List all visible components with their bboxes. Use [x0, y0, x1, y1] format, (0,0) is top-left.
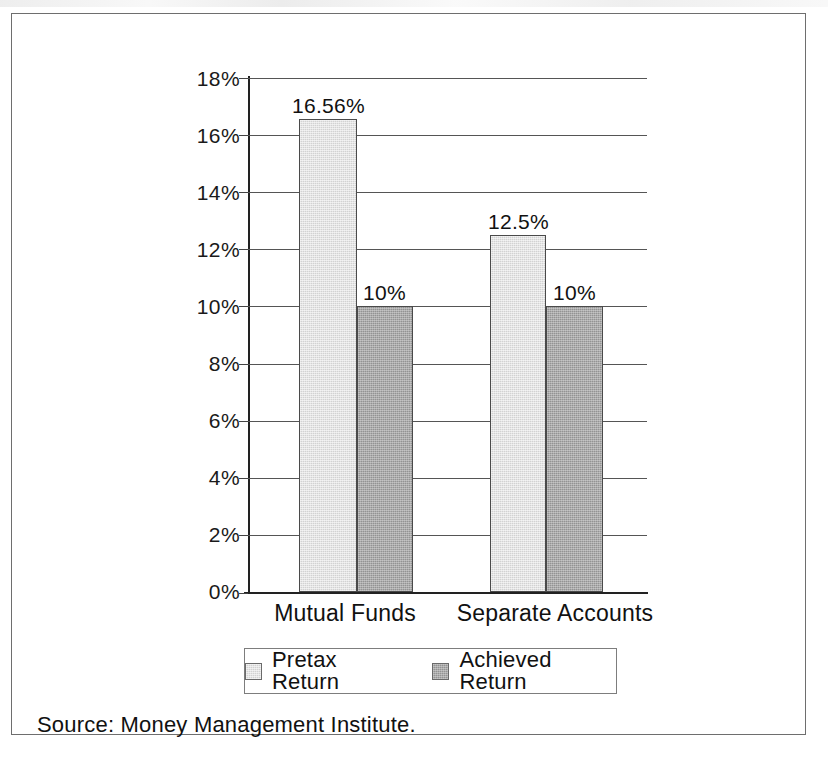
bar-value-mutual-funds-pretax: 16.56%: [292, 95, 365, 116]
legend-item-achieved-return[interactable]: Achieved Return: [432, 649, 616, 693]
legend-swatch-icon: [432, 663, 449, 680]
x-axis-baseline: [244, 592, 648, 594]
bar-separate-accounts-achieved[interactable]: [546, 306, 603, 592]
y-tick-label: 16%: [166, 125, 240, 146]
plot-area: 16.56% 10% 12.5% 10%: [248, 78, 647, 592]
bar-mutual-funds-achieved[interactable]: [357, 306, 413, 592]
legend-item-pretax-return[interactable]: Pretax Return: [245, 649, 402, 693]
y-tick-label: 6%: [166, 410, 240, 431]
figure-frame: 18% 16% 14% 12% 10% 8% 6% 4% 2% 0% 16.56…: [11, 13, 806, 735]
bar-separate-accounts-pretax[interactable]: [490, 235, 546, 592]
bar-value-separate-accounts-pretax: 12.5%: [488, 211, 549, 232]
gridline-18: [248, 78, 647, 79]
y-tick-label: 4%: [166, 467, 240, 488]
y-tick-label: 0%: [166, 581, 240, 602]
bar-value-mutual-funds-achieved: 10%: [363, 282, 406, 303]
y-tick-label: 14%: [166, 182, 240, 203]
legend-label: Achieved Return: [459, 649, 616, 693]
x-category-label-separate-accounts: Separate Accounts: [440, 602, 670, 625]
x-category-label-mutual-funds: Mutual Funds: [255, 602, 435, 625]
y-tick-label: 2%: [166, 524, 240, 545]
source-note: Source: Money Management Institute.: [37, 714, 416, 736]
y-axis-tick-labels: 18% 16% 14% 12% 10% 8% 6% 4% 2% 0%: [156, 78, 240, 592]
scan-edge-artifact: [0, 0, 828, 7]
bar-mutual-funds-pretax[interactable]: [299, 119, 357, 592]
legend-swatch-icon: [245, 663, 262, 680]
y-tick-label: 18%: [166, 68, 240, 89]
y-tick-label: 8%: [166, 353, 240, 374]
y-tick-label: 12%: [166, 239, 240, 260]
y-tick-label: 10%: [166, 296, 240, 317]
bar-value-separate-accounts-achieved: 10%: [553, 282, 596, 303]
chart-legend: Pretax Return Achieved Return: [244, 648, 617, 694]
legend-label: Pretax Return: [272, 649, 402, 693]
